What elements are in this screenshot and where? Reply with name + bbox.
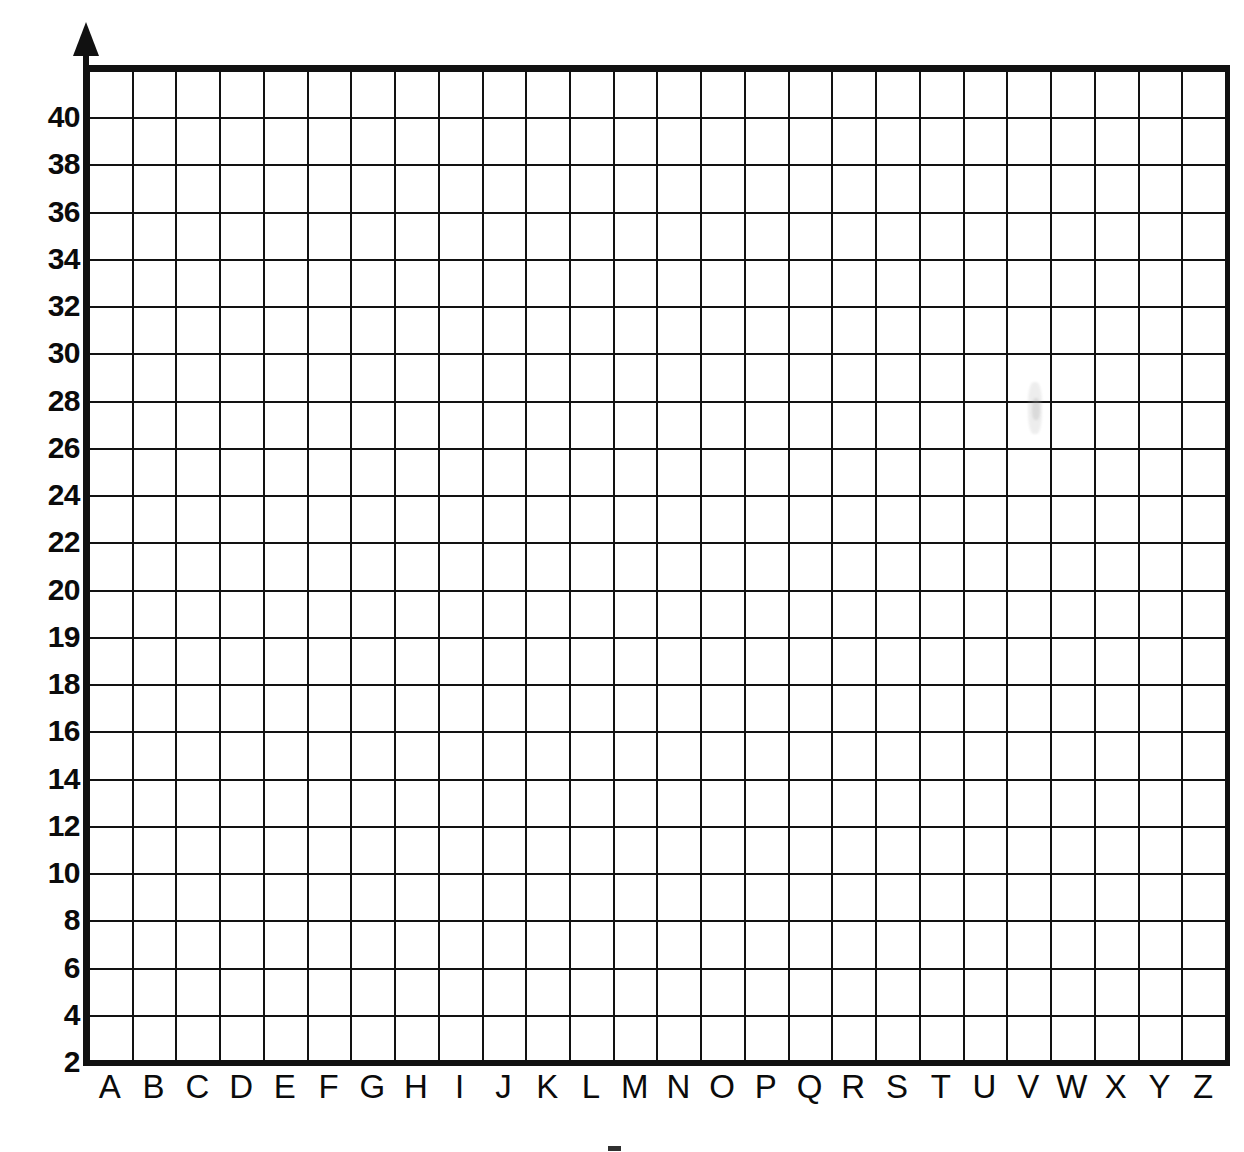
x-axis-tick-labels: ABCDEFGHIJKLMNOPQRSTUVWXYZ — [0, 0, 1244, 1152]
scan-artifact — [608, 1146, 621, 1151]
chart-sheet: 40383634323028262422201918161412108642 A… — [0, 0, 1244, 1152]
x-tick-label: Z — [1173, 1070, 1233, 1103]
